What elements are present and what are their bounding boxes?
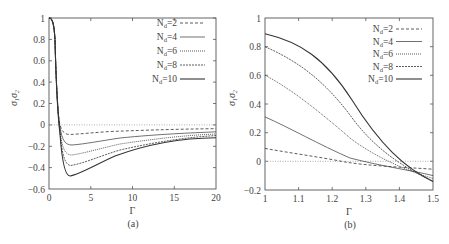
legend-b-item-nd8: Nd=8 [373,62,422,73]
svg-text:Nd=6: Nd=6 [373,49,393,60]
svg-text:Nd=4: Nd=4 [373,37,393,48]
svg-text:0: 0 [47,193,52,203]
svg-text:1.4: 1.4 [393,194,405,204]
panel-a: 1 0.8 0.6 0.4 0.2 0 −0.2 −0.4 −0.6 0 5 1… [8,14,221,231]
plot-b-frame [265,18,433,190]
svg-text:Nd=10: Nd=10 [368,74,393,85]
plot-b-yticks [265,47,433,162]
svg-text:1: 1 [40,14,45,24]
svg-text:1.5: 1.5 [427,194,439,204]
svg-text:1.1: 1.1 [293,194,305,204]
svg-text:Nd=4: Nd=4 [157,32,177,43]
svg-text:0.6: 0.6 [33,56,45,66]
svg-text:0.4: 0.4 [249,100,261,110]
plot-a-xticks [91,18,175,189]
plot-a-curves [49,18,216,176]
legend-a-item-nd6: Nd=6 [157,46,205,57]
svg-text:−0.4: −0.4 [28,163,45,173]
svg-text:0.8: 0.8 [33,35,45,45]
svg-text:Nd=8: Nd=8 [157,60,177,71]
svg-text:Nd=8: Nd=8 [373,62,393,73]
plot-b-ylabel: σ1σ2 [226,90,238,106]
svg-text:1: 1 [256,14,261,24]
svg-text:σ1σ2: σ1σ2 [8,90,20,106]
curve-b-nd6 [265,75,433,178]
svg-text:1.3: 1.3 [360,194,372,204]
legend-a-item-nd10: Nd=10 [152,74,205,85]
plot-b-xtick-labels: 1 1.1 1.2 1.3 1.4 1.5 [263,194,440,204]
plot-a-xlabel: Γ [130,205,136,216]
svg-text:Nd=2: Nd=2 [157,18,177,29]
svg-text:0: 0 [256,157,261,167]
curve-a-nd6 [49,18,216,155]
svg-text:10: 10 [128,193,138,203]
svg-text:0.2: 0.2 [33,99,45,109]
curve-a-nd2 [49,18,216,135]
svg-text:20: 20 [211,193,221,203]
svg-text:0.2: 0.2 [249,128,261,138]
legend-b-item-nd4: Nd=4 [373,37,422,48]
panel-b-label: (b) [344,219,356,231]
legend-a: Nd=2 Nd=4 Nd=6 Nd=8 Nd=10 [152,18,205,85]
svg-text:0.6: 0.6 [249,71,261,81]
panel-a-label: (a) [127,218,138,230]
plot-b-ytick-labels: 1 0.8 0.6 0.4 0.2 0 −0.2 [244,14,261,196]
figure-canvas: 1 0.8 0.6 0.4 0.2 0 −0.2 −0.4 −0.6 0 5 1… [0,0,449,244]
svg-text:0.8: 0.8 [249,42,261,52]
svg-text:Nd=2: Nd=2 [373,24,393,35]
legend-b: Nd=2 Nd=4 Nd=6 Nd=8 Nd=10 [368,24,422,85]
svg-text:1.2: 1.2 [326,194,338,204]
curve-a-nd10 [49,18,216,176]
svg-text:1: 1 [263,194,268,204]
svg-text:Nd=6: Nd=6 [157,46,177,57]
legend-a-item-nd2: Nd=2 [157,18,205,29]
curve-b-nd10 [265,34,433,182]
plot-b-xlabel: Γ [346,206,352,217]
plot-a-xtick-labels: 0 5 10 15 20 [47,193,221,203]
svg-text:−0.2: −0.2 [28,142,45,152]
legend-b-item-nd10: Nd=10 [368,74,422,85]
plot-a-ylabel: σ1σ2 [8,90,20,106]
svg-text:0: 0 [40,120,45,130]
legend-b-item-nd6: Nd=6 [373,49,422,60]
panel-b: 1 0.8 0.6 0.4 0.2 0 −0.2 1 1.1 1.2 1.3 1… [226,14,439,232]
plot-b-curves [265,34,433,182]
svg-text:−0.2: −0.2 [244,186,261,196]
curve-a-nd8 [49,18,216,166]
plot-a-frame [49,18,216,189]
svg-text:−0.6: −0.6 [28,185,45,195]
legend-b-item-nd2: Nd=2 [373,24,422,35]
svg-text:15: 15 [170,193,180,203]
svg-text:σ1σ2: σ1σ2 [226,90,238,106]
svg-text:Nd=10: Nd=10 [152,74,177,85]
svg-text:0.4: 0.4 [33,78,45,88]
legend-a-item-nd8: Nd=8 [157,60,205,71]
plot-a-ytick-labels: 1 0.8 0.6 0.4 0.2 0 −0.2 −0.4 −0.6 [28,14,45,195]
svg-text:5: 5 [88,193,93,203]
legend-a-item-nd4: Nd=4 [157,32,205,43]
curve-b-nd4 [265,117,433,176]
